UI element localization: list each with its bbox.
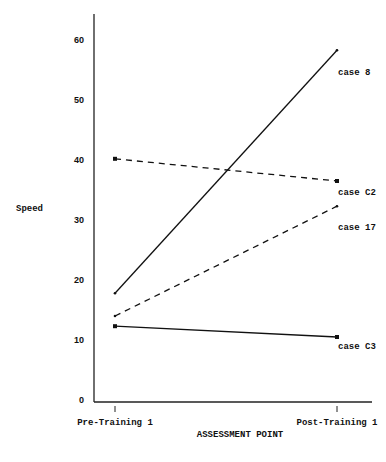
y-tick-label: 50 <box>74 95 84 105</box>
series-label: case C3 <box>338 342 376 352</box>
x-tick-label: Pre-Training 1 <box>77 418 153 428</box>
data-point-marker <box>335 335 339 339</box>
series-label: case 17 <box>338 223 376 233</box>
y-tick-label: 10 <box>74 335 84 345</box>
data-point-marker <box>335 179 339 183</box>
x-tick-label: Post-Training 1 <box>296 418 378 428</box>
data-point-marker <box>113 324 117 328</box>
series-line <box>115 159 337 181</box>
series-line <box>115 326 337 337</box>
series-label: case C2 <box>338 188 376 198</box>
y-tick-label: 0 <box>79 395 84 405</box>
data-point-marker <box>336 49 339 52</box>
y-tick-label: 30 <box>74 215 84 225</box>
data-point-marker <box>113 157 117 161</box>
x-axis-label: ASSESSMENT POINT <box>197 430 284 440</box>
series-line <box>115 50 337 293</box>
y-tick-label: 20 <box>74 275 84 285</box>
data-point-marker <box>114 315 117 318</box>
data-point-marker <box>114 292 117 295</box>
series-line <box>115 206 337 316</box>
y-tick-label: 60 <box>74 35 84 45</box>
line-chart: 0102030405060 Pre-Training 1Post-Trainin… <box>0 0 386 462</box>
data-point-marker <box>336 205 339 208</box>
y-tick-label: 40 <box>74 155 84 165</box>
y-axis-label: Speed <box>16 204 43 214</box>
series-label: case 8 <box>338 68 370 78</box>
